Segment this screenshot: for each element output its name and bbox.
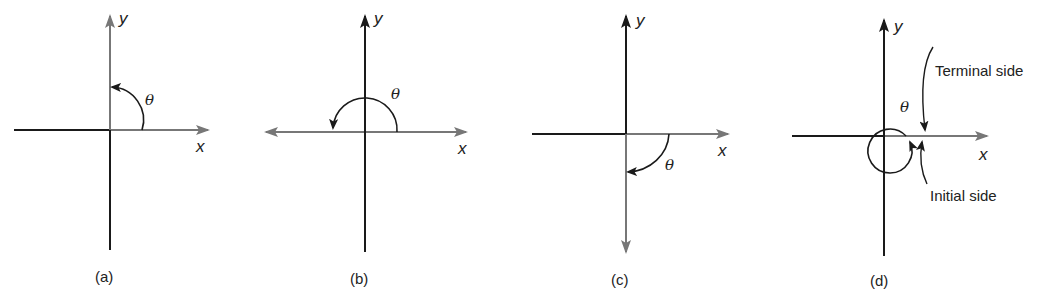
theta-label: θ [391, 85, 400, 103]
terminal-side-pointer [923, 47, 933, 130]
angle-arc [112, 87, 144, 130]
y-axis-label: y [635, 11, 646, 30]
panel-caption: (d) [870, 272, 888, 289]
panel-c: θ y x (c) [532, 11, 728, 288]
theta-label: θ [665, 156, 674, 174]
panel-d: θ y x Terminal side Initial side (d) [792, 17, 1023, 289]
y-axis-label: y [118, 9, 129, 28]
x-axis-label: x [717, 141, 727, 160]
y-axis-label: y [893, 17, 904, 36]
initial-side-label: Initial side [930, 187, 997, 204]
theta-label: θ [145, 91, 154, 109]
panel-caption: (c) [611, 271, 629, 288]
x-axis-label: x [978, 145, 988, 164]
y-axis-label: y [373, 9, 384, 28]
panel-caption: (b) [350, 270, 368, 287]
x-axis-label: x [457, 139, 467, 158]
panel-b: θ y x (b) [266, 9, 467, 287]
panel-a: θ y x (a) [14, 9, 208, 285]
x-axis-label: x [195, 137, 205, 156]
initial-side-pointer [921, 142, 927, 184]
angle-diagram: θ y x (a) θ y x (b) θ y x (c) θ y [0, 0, 1057, 307]
angle-arc [628, 134, 669, 172]
panel-caption: (a) [95, 268, 113, 285]
theta-label: θ [900, 98, 909, 116]
terminal-side-label: Terminal side [935, 62, 1023, 79]
